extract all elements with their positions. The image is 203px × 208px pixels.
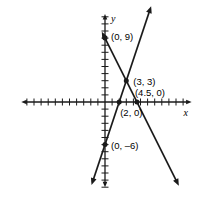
point-label-p-3-3: (3, 3) — [133, 76, 155, 87]
point-marker-p-0-m6 — [103, 142, 108, 147]
graph-canvas: (0, 9)(3, 3)(4.5, 0)(2, 0)(0, –6) yx — [0, 0, 203, 208]
point-label-p-45-0: (4.5, 0) — [135, 87, 165, 98]
point-labels-group: (0, 9)(3, 3)(4.5, 0)(2, 0)(0, –6) — [111, 31, 165, 151]
y-axis-label: y — [110, 13, 116, 24]
point-label-p-0-m6: (0, –6) — [111, 140, 138, 151]
point-label-p-2-0: (2, 0) — [120, 107, 142, 118]
x-axis-label: x — [183, 107, 189, 118]
point-marker-p-2-0 — [117, 100, 122, 105]
point-marker-p-45-0 — [134, 100, 139, 105]
point-marker-p-3-3 — [124, 78, 129, 83]
point-label-p-0-9: (0, 9) — [111, 31, 133, 42]
point-marker-p-0-9 — [103, 36, 108, 41]
coordinate-plane-figure: (0, 9)(3, 3)(4.5, 0)(2, 0)(0, –6) yx — [0, 0, 203, 208]
